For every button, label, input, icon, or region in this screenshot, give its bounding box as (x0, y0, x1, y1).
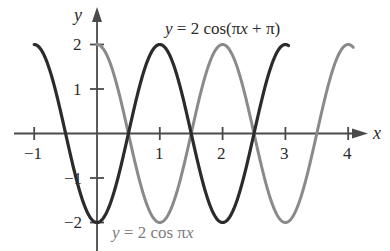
x-tick-label-neg1: −1 (24, 145, 42, 162)
x-tick-label-2: 2 (217, 145, 226, 162)
x-tick-label-3: 3 (280, 145, 289, 162)
annotation-dark-close: ) (275, 19, 281, 38)
x-tick-label-1: 1 (155, 145, 164, 162)
annotation-dark-eq: = 2 cos( (173, 19, 232, 38)
annotation-dark-pi2: π (266, 19, 275, 38)
annotation-dark-x: x (240, 19, 248, 38)
annotation-gray-x: x (186, 223, 194, 242)
y-tick-label-neg1: −1 (64, 170, 82, 187)
y-tick-label-1: 1 (73, 81, 82, 98)
annotation-gray-curve: y = 2 cos πx (112, 224, 193, 241)
x-tick-label-4: 4 (343, 145, 352, 162)
annotation-gray-lhs: y (112, 223, 120, 242)
annotation-gray-eq: = 2 cos (120, 223, 178, 242)
annotation-dark-curve: y = 2 cos(πx + π) (165, 20, 280, 37)
annotation-dark-lhs: y (165, 19, 173, 38)
cosine-graph-figure: y x −1 1 2 3 4 2 1 −1 −2 y = 2 cos(πx + … (0, 0, 390, 251)
y-tick-label-neg2: −2 (64, 214, 82, 231)
y-tick-label-2: 2 (73, 36, 82, 53)
annotation-gray-pi: π (177, 223, 186, 242)
y-axis-label: y (74, 6, 82, 24)
annotation-dark-plus: + (248, 19, 266, 38)
x-axis-label: x (373, 124, 381, 142)
